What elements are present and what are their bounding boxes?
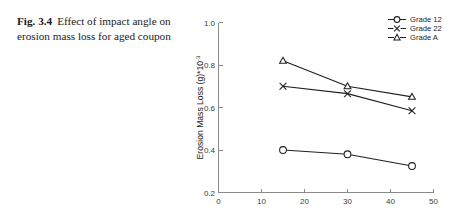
x-tick-label: 40 <box>386 197 395 206</box>
y-tick-label: 0.2 <box>204 189 216 198</box>
data-point-marker-x <box>409 107 416 114</box>
series-grade-22-line <box>283 86 412 110</box>
y-axis-ticks: 1.0 0.8 0.6 0.4 0.2 <box>204 19 223 198</box>
y-axis-title-text: Erosion Mass Loss (g)*10 <box>196 61 205 160</box>
data-point-marker-circle <box>280 147 287 154</box>
legend-marker-circle <box>394 17 400 23</box>
legend-item-grade-12[interactable]: Grade 12 <box>388 15 442 24</box>
legend-marker-x <box>394 26 400 32</box>
y-tick-label: 0.4 <box>204 146 216 155</box>
figure-number: Fig. 3.4 <box>17 15 52 27</box>
y-tick-label: 1.0 <box>204 19 216 28</box>
x-tick-label: 10 <box>257 197 266 206</box>
legend-item-grade-22[interactable]: Grade 22 <box>388 24 442 33</box>
svg-text:Erosion Mass Loss (g)*10-3: Erosion Mass Loss (g)*10-3 <box>196 55 205 159</box>
y-tick-label: 0.6 <box>204 104 216 113</box>
y-axis-title: Erosion Mass Loss (g)*10-3 <box>196 55 205 159</box>
series-grade-12 <box>280 147 416 170</box>
x-axis-ticks: 0 10 20 30 40 50 <box>216 189 438 207</box>
data-point-marker-circle <box>409 163 416 170</box>
figure-caption: Fig. 3.4Effect of impact angle on erosio… <box>17 14 175 45</box>
chart-legend: Grade 12 Grade 22 Grade <box>388 15 442 42</box>
legend-marker-triangle <box>394 34 400 40</box>
y-tick-label: 0.8 <box>204 61 216 70</box>
series-grade-a-line <box>283 61 412 97</box>
x-tick-label: 0 <box>216 197 221 206</box>
x-tick-label: 20 <box>300 197 309 206</box>
chart-area: 1.0 0.8 0.6 0.4 0.2 0 10 20 30 40 50 <box>196 8 462 216</box>
figure-page: Fig. 3.4Effect of impact angle on erosio… <box>0 0 462 216</box>
legend-label: Grade 22 <box>410 24 442 33</box>
data-point-marker-circle <box>344 151 351 158</box>
x-tick-label: 50 <box>429 197 438 206</box>
legend-item-grade-a[interactable]: Grade A <box>388 33 439 42</box>
y-axis-title-superscript: -3 <box>196 55 201 61</box>
legend-label: Grade A <box>410 33 439 42</box>
x-tick-label: 30 <box>343 197 352 206</box>
data-point-marker-triangle <box>280 57 287 63</box>
legend-label: Grade 12 <box>410 15 442 24</box>
